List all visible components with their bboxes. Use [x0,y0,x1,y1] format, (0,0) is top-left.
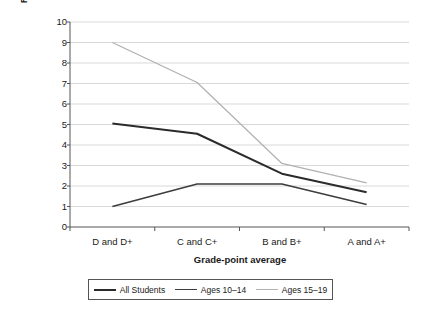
series-line [112,43,366,183]
x-axis-ticks [70,227,409,231]
legend-item[interactable]: All Students [94,285,165,295]
x-axis-tick-label: C and C+ [152,236,242,247]
x-axis-tick-label: A and A+ [322,236,412,247]
x-axis-tick-label: D and D+ [67,236,157,247]
x-axis-title: Grade-point average [70,254,410,265]
line-chart: Reported bullying incidents over three m… [0,0,421,315]
chart-legend: All StudentsAges 10–14Ages 15–19 [88,279,333,300]
legend-label: Ages 10–14 [201,285,246,295]
plot-area [0,0,421,315]
legend-swatch-icon [175,289,197,290]
legend-item[interactable]: Ages 10–14 [175,285,246,295]
legend-item[interactable]: Ages 15–19 [256,285,327,295]
x-axis-tick-label: B and B+ [237,236,327,247]
legend-label: Ages 15–19 [282,285,327,295]
legend-label: All Students [120,285,165,295]
series-line [112,123,366,192]
legend-swatch-icon [256,289,278,290]
legend-swatch-icon [94,289,116,291]
series-line [112,184,366,207]
